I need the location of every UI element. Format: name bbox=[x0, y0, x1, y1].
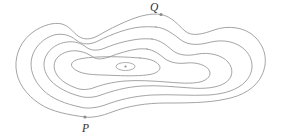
contour-level-1 bbox=[16, 14, 265, 117]
point-label-p: P bbox=[81, 122, 89, 134]
point-marker-q[interactable] bbox=[159, 13, 162, 16]
contour-map-figure: Q P bbox=[0, 0, 286, 139]
contour-level-3 bbox=[44, 39, 232, 98]
peak-center-dot bbox=[124, 65, 126, 67]
point-label-q: Q bbox=[150, 1, 159, 13]
point-marker-p[interactable] bbox=[83, 115, 86, 118]
